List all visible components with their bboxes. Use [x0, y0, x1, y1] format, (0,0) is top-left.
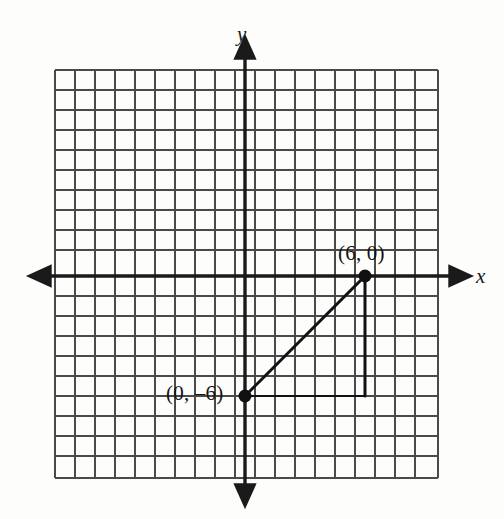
point-marker-6-0	[359, 270, 372, 283]
x-axis-left-arrowhead	[30, 267, 50, 285]
point-label-6-0: (6, 0)	[338, 243, 385, 264]
point-marker-0-neg6	[239, 390, 252, 403]
x-axis	[30, 267, 470, 285]
y-axis-down-arrowhead	[236, 485, 254, 505]
x-axis-right-arrowhead	[450, 267, 470, 285]
figure-canvas: y x (6, 0) (0, –6)	[0, 0, 504, 519]
coordinate-plane-graphic	[0, 0, 504, 519]
x-axis-label: x	[476, 266, 485, 287]
y-axis-label: y	[237, 24, 246, 45]
point-label-0-neg6: (0, –6)	[166, 383, 223, 404]
y-axis	[236, 38, 254, 505]
